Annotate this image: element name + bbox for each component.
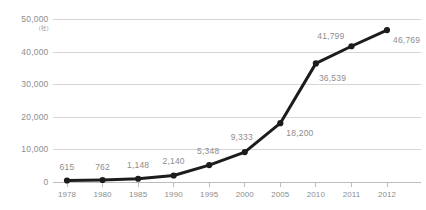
x-axis-tick-label: 2000	[225, 191, 265, 199]
y-axis-tick-label: 0	[44, 178, 49, 187]
x-axis-tick-label: 2010	[296, 191, 336, 199]
x-axis-tick-label: 1990	[154, 191, 194, 199]
x-axis-tick-label: 2011	[331, 191, 371, 199]
y-axis-tick-label: 40,000	[21, 48, 48, 57]
data-point-marker	[384, 27, 390, 33]
data-point-marker	[171, 172, 177, 178]
x-axis-tick-label: 1980	[83, 191, 123, 199]
x-axis-tick-label: 2012	[367, 191, 407, 199]
data-point-marker	[242, 149, 248, 155]
x-axis-tick-marks	[67, 183, 387, 187]
y-axis-tick-label: 10,000	[21, 145, 48, 154]
data-point-label: 5,348	[178, 147, 238, 156]
data-point-marker	[206, 162, 212, 168]
series-line	[67, 30, 387, 180]
x-axis-tick-label: 1995	[189, 191, 229, 199]
data-point-label: 9,333	[212, 133, 272, 142]
data-point-label: 18,200	[286, 129, 313, 138]
data-point-marker	[277, 120, 283, 126]
y-axis-tick-label: 30,000	[21, 80, 48, 89]
data-point-marker	[313, 60, 319, 66]
data-point-label: 2,140	[144, 157, 204, 166]
data-point-marker	[64, 177, 70, 183]
data-point-label: 41,799	[317, 32, 344, 41]
y-axis-tick-label: 20,000	[21, 113, 48, 122]
data-point-label: 36,539	[319, 74, 346, 83]
chart-canvas	[0, 0, 426, 210]
line-chart: 50,00040,00030,00020,00010,0000 (社) 1978…	[0, 0, 426, 210]
data-point-marker	[135, 176, 141, 182]
y-axis-unit-label: (社)	[39, 26, 49, 32]
data-point-label: 46,769	[393, 36, 420, 45]
x-axis-tick-label: 1985	[118, 191, 158, 199]
data-point-marker	[99, 177, 105, 183]
data-point-marker	[348, 43, 354, 49]
x-axis-tick-label: 1978	[47, 191, 87, 199]
y-axis-tick-label: 50,000	[21, 15, 48, 24]
x-axis-tick-label: 2005	[260, 191, 300, 199]
